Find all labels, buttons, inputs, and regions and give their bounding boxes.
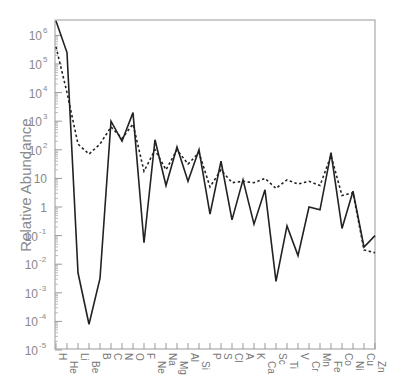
y-tick-label: 10 [25,258,39,272]
x-tick-label: Li [79,353,90,361]
x-tick-label: Sc [277,353,288,365]
x-tick-label: A [244,353,255,360]
x-tick-label: S [222,353,233,360]
x-tick-label: Ne [156,361,167,374]
y-tick-label: 10 [29,144,43,158]
x-tick-label: Si [200,361,211,370]
x-axis: HHeLiBeBCNOFNeNaMgAlSiPSClAKCaScTiVCrMnF… [56,343,387,375]
x-tick-label: H [57,353,68,360]
y-tick-exponent: 3 [43,112,48,121]
y-tick-label: 10 [25,344,39,358]
x-tick-label: V [299,353,310,360]
x-tick-label: P [211,353,222,360]
abundance-chart: Relative Abundance 10610510410310210110-… [0,0,395,390]
x-tick-label: Cr [310,361,321,372]
x-tick-label: B [101,353,112,360]
x-tick-label: He [68,361,79,374]
y-tick-label: 10 [29,87,43,101]
y-tick-label: 10 [25,315,39,329]
x-tick-label: Al [189,353,200,362]
y-tick-label: 10 [25,230,39,244]
y-tick-exponent: -2 [39,255,47,264]
y-tick-exponent: 6 [43,26,48,35]
x-tick-label: O [134,353,145,361]
y-tick-exponent: 2 [43,141,48,150]
y-tick-label: 10 [29,58,43,72]
x-tick-label: N [123,353,134,360]
solid-series-line [56,21,375,324]
x-tick-label: Co [343,353,354,366]
x-tick-label: Be [90,361,101,374]
y-tick-exponent: 5 [43,55,48,64]
x-tick-label: Cu [365,353,376,366]
x-tick-label: Zn [376,361,387,373]
x-tick-label: C [112,353,123,360]
x-tick-label: Ti [288,361,299,369]
x-tick-label: Mg [178,361,189,375]
x-tick-label: Na [167,353,178,366]
y-tick-exponent: -3 [39,284,47,293]
x-tick-label: Mn [321,353,332,367]
plot-frame [55,20,375,349]
y-tick-label: 10 [34,172,48,186]
data-series [56,21,375,324]
x-tick-label: Fe [332,361,343,373]
x-tick-label: K [255,353,266,360]
y-tick-label: 10 [25,287,39,301]
y-tick-exponent: -1 [39,227,47,236]
x-tick-label: Cl [233,353,244,362]
y-tick-label: 1 [40,201,47,215]
y-tick-exponent: 4 [43,84,48,93]
y-tick-exponent: -4 [39,312,47,321]
x-tick-label: Ca [266,361,277,374]
x-tick-label: Ni [354,361,365,370]
y-tick-exponent: -5 [39,341,47,350]
y-tick-label: 10 [29,29,43,43]
x-tick-label: F [145,353,156,359]
y-tick-label: 10 [29,115,43,129]
